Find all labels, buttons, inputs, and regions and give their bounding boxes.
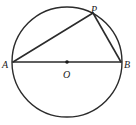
geometry-canvas [0,0,136,125]
point-label-b: B [124,60,130,70]
point-label-o: O [63,70,70,80]
center-point-dot [65,60,69,64]
segment-chord-ap [13,13,93,62]
point-label-a: A [2,60,8,70]
geometry-figure: A B P O [0,0,136,125]
point-label-p: P [91,5,97,15]
